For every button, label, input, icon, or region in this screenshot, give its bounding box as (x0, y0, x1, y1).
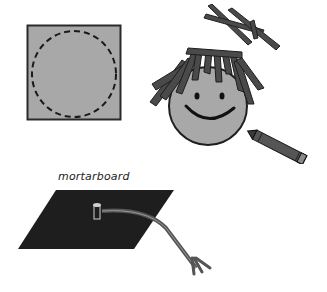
crayon-icon (242, 128, 312, 164)
mortarboard-label: mortarboard (58, 170, 130, 183)
crayon (242, 128, 312, 164)
square-template (26, 24, 123, 122)
mortarboard (16, 188, 226, 278)
square-dashed-circle-icon (26, 24, 123, 122)
mortarboard-icon (16, 188, 226, 278)
